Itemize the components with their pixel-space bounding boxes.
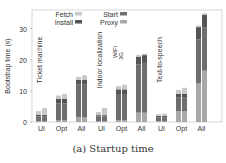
legend-swatch [75,20,82,24]
x-tick-label: UI [38,125,45,132]
bar-segment-start [156,117,161,121]
bar-segment-fetch [102,108,107,115]
bar-segment-start [102,116,107,121]
legend-label: Start [103,11,118,18]
bar-segment-proxy [56,120,61,122]
bar-segment-proxy [102,121,107,122]
bar-segment-install [136,57,141,65]
bar-segment-fetch [176,90,181,94]
bar-segment-proxy [36,121,41,122]
y-axis-label: Bootstrap time (s) [4,38,12,93]
bar-segment-start [142,63,147,113]
bar-segment-start [42,116,47,121]
x-tick-label: All [198,125,206,132]
bar-segment-fetch [122,85,127,90]
bar-segment-fetch [136,55,141,57]
bar-segment-fetch [162,114,167,116]
bar-segment-install [122,89,127,94]
bar-segment-fetch [202,13,207,15]
bar-segment-proxy [96,121,101,122]
bar-segment-install [142,55,147,63]
bar-segment-install [42,115,47,117]
legend-label: Fetch [55,11,73,18]
bar-segment-proxy [156,121,161,122]
bar-segment-proxy [142,113,147,122]
bar-segment-install [102,115,107,116]
bar-segment-fetch [76,77,81,80]
bar-segment-install [76,80,81,85]
bar-segment-start [176,97,181,111]
bar-segment-start [122,94,127,120]
bar-segment-install [82,80,87,85]
chart-plot: 0102030Bootstrap time (s)UIOptAllTicket … [0,0,226,143]
bar-segment-install [56,99,61,104]
bar-segment-fetch [56,96,61,99]
bar-segment-proxy [176,111,181,122]
bar-segment-start [202,27,207,71]
bar-segment-install [116,89,121,94]
bar-segment-install [162,116,167,118]
startup-time-chart: 0102030Bootstrap time (s)UIOptAllTicket … [0,0,226,163]
bar-segment-fetch [42,108,47,115]
x-tick-label: All [78,125,86,132]
chart-caption: (a) Startup time [0,143,226,154]
bar-segment-install [96,115,101,116]
x-tick-label: Opt [176,125,187,133]
x-tick-label: UI [98,125,105,132]
bar-segment-proxy [122,120,127,122]
y-tick-label: 30 [19,26,27,33]
group-label: Indoor localization [96,32,103,89]
x-tick-label: Opt [116,125,127,133]
y-tick-label: 0 [23,119,27,126]
bar-segment-proxy [62,120,67,122]
x-tick-label: UI [158,125,165,132]
bar-segment-proxy [82,117,87,122]
bar-segment-start [182,97,187,111]
bar-segment-fetch [116,86,121,89]
bar-segment-install [156,116,161,118]
bar-segment-proxy [196,83,201,122]
bar-segment-install [202,15,207,27]
bar-segment-proxy [42,121,47,122]
bar-segment-fetch [36,111,41,115]
bar-segment-start [62,103,67,120]
bar-segment-fetch [142,54,147,56]
legend-swatch [75,12,82,16]
x-tick-label: All [138,125,146,132]
bar-segment-fetch [196,26,201,28]
bar-segment-start [82,85,87,118]
bar-segment-proxy [136,113,141,122]
x-tick-label: Opt [56,125,67,133]
bar-segment-start [116,94,121,120]
bar-segment-start [136,64,141,112]
bar-segment-proxy [76,117,81,122]
bar-segment-install [176,94,181,97]
group-label: Ticket machine [36,36,43,83]
bar-segment-start [162,117,167,121]
y-tick-label: 20 [19,57,27,64]
bar-segment-fetch [82,75,87,80]
bar-segment-install [182,94,187,97]
bar-segment-fetch [156,114,161,116]
bar-segment-fetch [96,112,101,115]
legend-label: Proxy [100,19,118,27]
bar-segment-start [76,85,81,118]
bar-segment-install [36,115,41,117]
y-tick-label: 10 [19,88,27,95]
bar-segment-proxy [116,120,121,122]
legend-swatch [120,20,127,24]
bar-segment-fetch [62,94,67,99]
legend-swatch [120,12,127,16]
bar-segment-proxy [162,121,167,122]
bar-segment-start [96,116,101,121]
group-label: Text-to-speech [156,37,164,83]
bar-segment-start [196,40,201,84]
bar-segment-install [62,99,67,104]
legend-label: Install [55,19,74,26]
bar-segment-proxy [202,71,207,122]
annotation-3g: 3G [118,52,124,60]
bar-segment-proxy [182,111,187,122]
bar-segment-fetch [182,88,187,94]
bar-segment-start [36,116,41,121]
bar-segment-start [56,103,61,120]
